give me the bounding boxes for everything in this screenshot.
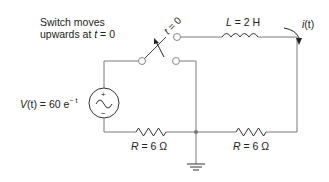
- switch: [139, 34, 181, 65]
- arrow-head-icon: [154, 38, 159, 44]
- voltage-source: + −: [89, 88, 119, 118]
- resistor-1: [136, 128, 166, 136]
- wire-lower-contact: [180, 61, 196, 132]
- source-label: V(t) = 60 e− t: [20, 97, 77, 110]
- resistor-2-label: R = 6 Ω: [233, 140, 269, 152]
- switch-pole-contact: [139, 58, 146, 65]
- switch-motion-arrow: [156, 42, 164, 57]
- inductor-label: L = 2 H: [226, 16, 260, 28]
- switch-upper-contact: [174, 34, 181, 41]
- switch-time-label: t = 0: [162, 14, 184, 36]
- ground-icon: [187, 132, 205, 170]
- circuit-diagram: Switch moves upwards at t = 0 t = 0 L = …: [0, 0, 329, 182]
- resistor-2: [236, 128, 266, 136]
- wire-bottom: [104, 118, 297, 136]
- current-label: i(t): [302, 18, 314, 30]
- wire-left-top: [104, 61, 138, 88]
- switch-note-line2: upwards at t = 0: [40, 28, 115, 40]
- resistor-1-label: R = 6 Ω: [131, 140, 167, 152]
- switch-note-line1: Switch moves: [40, 16, 105, 28]
- wire-top: [181, 34, 297, 133]
- switch-lower-contact: [173, 58, 180, 65]
- inductor: [222, 34, 258, 38]
- source-plus: +: [101, 90, 106, 99]
- source-minus: −: [101, 109, 106, 118]
